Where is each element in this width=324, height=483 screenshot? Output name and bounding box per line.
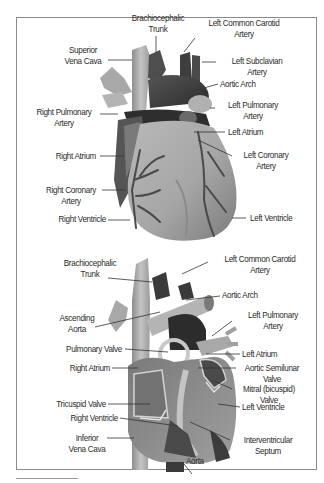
label-left-common-carotid-artery-bottom: Left Common CarotidArtery [218, 254, 302, 276]
label-inferior-vena-cava: InferiorVena Cava [65, 433, 109, 455]
label-left-coronary-artery: Left CoronaryArtery [240, 150, 293, 172]
right-atrium-chamber [134, 370, 168, 418]
label-left-atrium-top: Left Atrium [228, 127, 263, 138]
superior-vena-cava-shape [132, 45, 150, 114]
label-right-atrium-bottom: Right Atrium [48, 363, 110, 374]
label-ascending-aorta: AscendingAorta [55, 313, 99, 335]
label-aortic-arch-bottom: Aortic Arch [222, 290, 258, 301]
label-right-atrium-top: Right Atrium [38, 151, 96, 162]
label-interventricular-septum: InterventricularSeptum [236, 435, 299, 457]
left-subclavian-shape [192, 55, 200, 82]
aorta-stub [166, 462, 184, 472]
label-tricuspid-valve: Tricuspid Valve [39, 399, 106, 410]
label-left-pulmonary-artery-bottom: Left PulmonaryArtery [239, 310, 308, 332]
label-left-pulmonary-artery-top: Left PulmonaryArtery [219, 100, 288, 122]
label-pulmonary-valve: Pulmonary Valve [50, 344, 122, 355]
label-brachiocephalic-trunk-bottom: BrachiocephalicTrunk [58, 258, 121, 280]
label-brachiocephalic-trunk-top: BrachiocephalicTrunk [121, 13, 195, 35]
label-left-subclavian-artery: Left SubclavianArtery [223, 56, 292, 78]
right-pulmonary-artery-shape [100, 67, 132, 96]
internal-heart [108, 258, 238, 472]
label-right-coronary-artery: Right CoronaryArtery [42, 185, 100, 207]
label-right-ventricle-bottom: Right Ventricle [49, 413, 118, 424]
label-aortic-semilunar-valve: Aortic SemilunarValve [242, 363, 302, 385]
left-pulmonary-artery-shape [188, 95, 212, 113]
label-left-ventricle-top: Left Ventricle [250, 213, 292, 224]
ventricles-shape [128, 121, 237, 241]
label-superior-vena-cava-top: SuperiorVena Cava [61, 45, 105, 67]
label-aortic-arch-top: Aortic Arch [220, 79, 256, 90]
label-left-atrium-bottom: Left Atrium [242, 349, 277, 360]
label-right-pulmonary-artery: Right PulmonaryArtery [32, 107, 95, 129]
label-left-ventricle-bottom: Left Ventricle [242, 402, 284, 413]
label-left-common-carotid-artery-top: Left Common CarotidArtery [202, 18, 286, 40]
label-aorta: Aorta [186, 456, 204, 467]
label-right-ventricle-top: Right Ventricle [39, 214, 106, 225]
external-heart [100, 45, 237, 241]
